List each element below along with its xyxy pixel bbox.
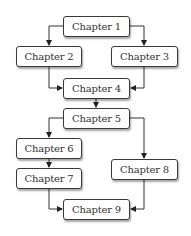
node-chapter-5: Chapter 5: [63, 108, 130, 129]
edge-ch7-ch9: [49, 189, 62, 209]
edge-ch3-ch4: [131, 67, 144, 88]
node-label: Chapter 4: [72, 83, 121, 94]
node-chapter-6: Chapter 6: [16, 138, 82, 159]
node-chapter-4: Chapter 4: [63, 78, 130, 99]
edge-ch8-ch9: [131, 180, 144, 209]
edge-ch5-ch8: [130, 118, 144, 158]
node-label: Chapter 7: [25, 173, 74, 184]
edge-ch2-ch4: [49, 67, 62, 88]
node-chapter-7: Chapter 7: [16, 168, 82, 189]
node-chapter-8: Chapter 8: [111, 159, 178, 180]
edge-ch1-ch2: [49, 26, 63, 45]
node-label: Chapter 8: [120, 164, 169, 175]
node-label: Chapter 5: [72, 113, 121, 124]
node-label: Chapter 2: [25, 51, 74, 62]
node-label: Chapter 6: [25, 143, 74, 154]
node-chapter-1: Chapter 1: [63, 16, 130, 37]
node-chapter-2: Chapter 2: [16, 46, 82, 67]
node-chapter-3: Chapter 3: [111, 46, 178, 67]
node-label: Chapter 1: [72, 21, 121, 32]
node-chapter-9: Chapter 9: [63, 199, 130, 220]
edge-ch1-ch3: [130, 26, 144, 45]
node-label: Chapter 9: [72, 204, 121, 215]
edge-ch5-ch6: [49, 118, 63, 137]
node-label: Chapter 3: [120, 51, 169, 62]
